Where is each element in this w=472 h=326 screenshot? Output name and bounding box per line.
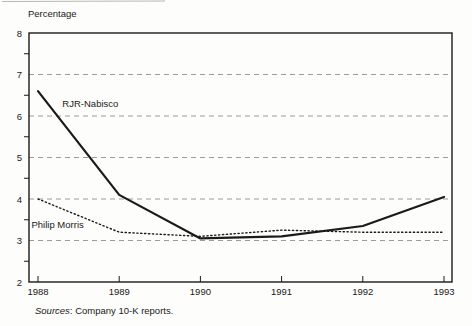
series-label-rjr-nabisco: RJR-Nabisco bbox=[62, 98, 118, 109]
chart-canvas: 2345678 198819891990199119921993 RJR-Nab… bbox=[0, 0, 472, 326]
y-axis-title: Percentage bbox=[28, 8, 77, 19]
y-tick-label-2: 2 bbox=[17, 277, 22, 288]
x-tick-label-1989: 1989 bbox=[109, 286, 130, 297]
x-axis-tick-labels: 198819891990199119921993 bbox=[27, 286, 454, 297]
series-line-rjr-nabisco bbox=[38, 91, 444, 238]
y-tick-label-8: 8 bbox=[17, 28, 22, 39]
x-tick-label-1991: 1991 bbox=[271, 286, 292, 297]
series-label-philip-morris: Philip Morris bbox=[32, 219, 85, 230]
scan-artifact-line bbox=[2, 1, 165, 2]
source-note-italic-part: Sources bbox=[35, 305, 70, 316]
y-tick-label-4: 4 bbox=[17, 194, 22, 205]
x-tick-label-1993: 1993 bbox=[433, 286, 454, 297]
y-tick-label-5: 5 bbox=[17, 152, 22, 163]
y-tick-label-3: 3 bbox=[17, 235, 22, 246]
data-series-lines bbox=[38, 91, 444, 238]
y-tick-label-7: 7 bbox=[17, 69, 22, 80]
x-tick-label-1990: 1990 bbox=[190, 286, 211, 297]
x-tick-label-1992: 1992 bbox=[352, 286, 373, 297]
series-inline-labels: RJR-NabiscoPhilip Morris bbox=[32, 98, 119, 230]
line-chart-figure: 2345678 198819891990199119921993 RJR-Nab… bbox=[0, 0, 472, 326]
x-tick-label-1988: 1988 bbox=[27, 286, 48, 297]
axis-ticks bbox=[24, 54, 444, 282]
y-tick-label-6: 6 bbox=[17, 111, 22, 122]
y-axis-tick-labels: 2345678 bbox=[17, 28, 22, 288]
source-note-rest-part: : Company 10-K reports. bbox=[70, 305, 174, 316]
source-note: Sources: Company 10-K reports. bbox=[35, 305, 173, 316]
